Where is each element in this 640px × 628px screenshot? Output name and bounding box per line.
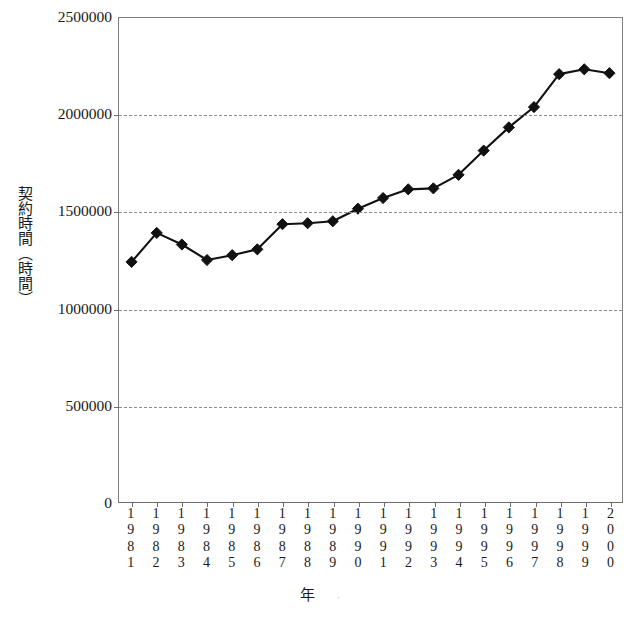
x-tick-label-digit: 7 (524, 555, 546, 571)
x-tick-label-digit: 1 (549, 506, 571, 522)
x-tick-label-digit: 1 (372, 506, 394, 522)
y-tick-label: 0 (12, 495, 112, 511)
x-tick-label-digit: 5 (473, 555, 495, 571)
x-tick-label-digit: 9 (397, 539, 419, 555)
x-tick-label-digit: 1 (347, 506, 369, 522)
x-tick-label-digit: 9 (574, 555, 596, 571)
x-tick-label-digit: 9 (498, 539, 520, 555)
gridline (119, 115, 622, 116)
x-tick-label-digit: 2 (599, 506, 621, 522)
x-tick-label: 1998 (549, 506, 571, 572)
x-tick-label-digit: 9 (397, 522, 419, 538)
x-tick-label: 1988 (296, 506, 318, 572)
x-tick-label: 1981 (120, 506, 142, 572)
data-point-marker (403, 184, 414, 195)
x-tick-label-digit: 8 (322, 539, 344, 555)
x-tick-label-digit: 9 (372, 539, 394, 555)
data-point-marker (377, 192, 388, 203)
y-tick-label: 1000000 (12, 301, 112, 317)
x-tick-label-digit: 6 (498, 555, 520, 571)
x-tick-label-digit: 9 (498, 522, 520, 538)
x-tick-label-digit: 8 (221, 539, 243, 555)
x-tick-label-digit: 9 (549, 522, 571, 538)
x-tick-label: 2000 (599, 506, 621, 572)
x-tick-label: 1994 (448, 506, 470, 572)
x-tick-label-digit: 9 (246, 522, 268, 538)
x-tick-label: 1986 (246, 506, 268, 572)
x-tick-label: 1997 (524, 506, 546, 572)
x-tick-label: 1984 (195, 506, 217, 572)
x-tick-label-digit: 3 (423, 555, 445, 571)
data-point-marker (604, 68, 615, 79)
x-tick-label-digit: 0 (599, 539, 621, 555)
x-tick-label-digit: 9 (448, 522, 470, 538)
x-tick-label-digit: 1 (574, 506, 596, 522)
x-tick-label-digit: 9 (574, 522, 596, 538)
x-tick-label-digit: 9 (221, 522, 243, 538)
x-tick-label: 1987 (271, 506, 293, 572)
x-axis-tick-labels: 1981198219831984198519861987198819891990… (118, 506, 623, 576)
x-axis-title: 年· (0, 583, 640, 604)
x-tick-label-digit: 9 (347, 522, 369, 538)
x-tick-label-digit: 1 (296, 506, 318, 522)
x-tick-label-digit: 9 (473, 522, 495, 538)
x-tick-label-digit: 9 (347, 539, 369, 555)
x-tick-label: 1992 (397, 506, 419, 572)
data-point-marker (428, 183, 439, 194)
x-axis-title-text: 年 (300, 587, 315, 603)
y-tick-label: 2000000 (12, 106, 112, 122)
x-tick-label-digit: 1 (372, 555, 394, 571)
line-chart: 契約時間（時間） 0500000100000015000002000000250… (0, 0, 640, 628)
x-tick-label-digit: 1 (322, 506, 344, 522)
x-tick-label-digit: 1 (221, 506, 243, 522)
y-axis-tick-labels: 05000001000000150000020000002500000 (8, 0, 112, 628)
x-tick-label-digit: 9 (120, 522, 142, 538)
data-point-marker (227, 250, 238, 261)
x-tick-label-digit: 9 (423, 539, 445, 555)
plot-area (118, 17, 623, 503)
x-tick-label: 1995 (473, 506, 495, 572)
series-polyline (132, 69, 610, 262)
x-tick-label: 1982 (145, 506, 167, 572)
x-tick-label-digit: 5 (221, 555, 243, 571)
gridline (119, 407, 622, 408)
x-tick-label: 1989 (322, 506, 344, 572)
x-tick-label-digit: 1 (120, 506, 142, 522)
x-tick-label: 1991 (372, 506, 394, 572)
x-tick-label-digit: 3 (170, 555, 192, 571)
x-tick-label-digit: 9 (271, 522, 293, 538)
x-tick-label-digit: 8 (195, 539, 217, 555)
x-tick-label-digit: 7 (271, 555, 293, 571)
x-tick-label-digit: 1 (195, 506, 217, 522)
x-tick-label-digit: 1 (246, 506, 268, 522)
data-point-marker (176, 239, 187, 250)
data-point-marker (302, 218, 313, 229)
x-tick-label-digit: 8 (120, 539, 142, 555)
x-tick-label-digit: 1 (397, 506, 419, 522)
x-tick-label-digit: 1 (473, 506, 495, 522)
x-tick-label-digit: 9 (322, 555, 344, 571)
x-tick-label-digit: 9 (372, 522, 394, 538)
x-tick-label-digit: 8 (246, 539, 268, 555)
x-tick-label-digit: 1 (524, 506, 546, 522)
x-tick-label-digit: 9 (448, 539, 470, 555)
x-tick-label-digit: 9 (524, 539, 546, 555)
y-tick-label: 2500000 (12, 9, 112, 25)
x-tick-label-digit: 1 (120, 555, 142, 571)
x-tick-label-digit: 9 (574, 539, 596, 555)
x-tick-label: 1990 (347, 506, 369, 572)
x-tick-label-digit: 1 (448, 506, 470, 522)
x-tick-label-digit: 1 (145, 506, 167, 522)
x-tick-label-digit: 4 (448, 555, 470, 571)
x-tick-label-digit: 8 (170, 539, 192, 555)
x-tick-label-digit: 8 (296, 555, 318, 571)
x-tick-label-digit: 0 (599, 522, 621, 538)
stray-dot-artifact: · (337, 591, 341, 603)
x-tick-label-digit: 8 (296, 539, 318, 555)
x-tick-label: 1996 (498, 506, 520, 572)
x-tick-label: 1983 (170, 506, 192, 572)
x-tick-label-digit: 1 (170, 506, 192, 522)
y-tick-label: 500000 (12, 398, 112, 414)
x-tick-label-digit: 9 (524, 522, 546, 538)
x-tick-label-digit: 2 (397, 555, 419, 571)
